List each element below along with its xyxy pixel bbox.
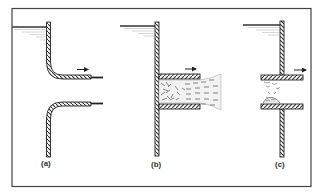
- pipe-entrance-diagram: (a) (b): [0, 0, 326, 196]
- wall-lower-a: [47, 102, 92, 157]
- pipe-top-b: [159, 74, 200, 79]
- wall-upper-a: [47, 22, 92, 79]
- panel-b: (b): [120, 22, 221, 169]
- tube-top-c: [261, 75, 303, 80]
- wall-b: [155, 22, 159, 156]
- tube-bottom-c: [261, 104, 303, 109]
- panel-label-c: (c): [275, 160, 285, 169]
- pipe-bottom-b: [159, 104, 200, 109]
- water-ripples-a: [14, 30, 46, 41]
- panel-label-b: (b): [151, 160, 162, 169]
- wall-lower-c: [280, 106, 284, 157]
- water-ripples-c: [248, 28, 279, 36]
- panel-c: (c): [243, 21, 306, 169]
- wall-upper-c: [280, 21, 284, 77]
- panel-a: (a): [12, 22, 103, 168]
- eddies-c: [263, 82, 280, 103]
- panel-label-a: (a): [41, 159, 51, 168]
- water-ripples-b: [124, 29, 154, 37]
